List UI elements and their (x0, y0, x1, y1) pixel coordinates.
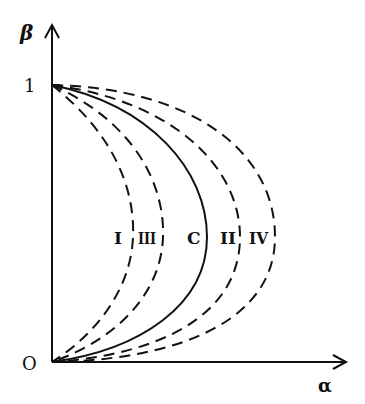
x-axis-label: α (318, 375, 332, 396)
curve-label-II: II (220, 228, 236, 248)
curve-label-III: III (138, 228, 156, 248)
curve-label-C: C (187, 228, 201, 248)
diagram-canvas: β α 1 O I III C II IV (0, 0, 365, 404)
curve-I (52, 85, 133, 362)
y-axis-label: β (19, 21, 33, 45)
curve-label-I: I (114, 228, 122, 248)
origin-label: O (22, 353, 37, 374)
curve-label-IV: IV (249, 228, 269, 248)
curve-C (52, 85, 207, 362)
axes (45, 25, 346, 369)
curves (52, 85, 275, 362)
y-tick-one-label: 1 (24, 75, 35, 96)
